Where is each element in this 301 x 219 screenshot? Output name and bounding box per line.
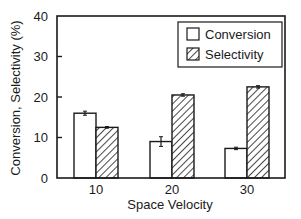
bars — [74, 86, 269, 178]
y-tick-label: 40 — [34, 9, 48, 24]
y-axis-label: Conversion, Selectivity (%) — [8, 20, 23, 175]
legend: Conversion Selectivity — [178, 22, 282, 67]
legend-swatch-selectivity — [187, 48, 199, 60]
legend-label-conversion: Conversion — [205, 27, 271, 42]
y-tick-label: 20 — [34, 90, 48, 105]
x-tick-label: 20 — [165, 182, 179, 197]
x-tick-label: 10 — [89, 182, 103, 197]
bar-selectivity-30 — [247, 87, 269, 178]
y-tick-label: 0 — [41, 171, 48, 186]
bar-conversion-10 — [74, 113, 96, 178]
y-tick-labels: 40 30 20 10 0 — [34, 9, 48, 186]
x-tick-label: 30 — [240, 182, 254, 197]
y-tick-label: 30 — [34, 49, 48, 64]
bar-conversion-20 — [150, 142, 172, 178]
bar-chart: Conversion, Selectivity (%) 40 30 20 10 … — [0, 0, 301, 219]
x-tick-labels: 10 20 30 — [89, 182, 254, 197]
legend-swatch-conversion — [187, 28, 199, 40]
bar-selectivity-20 — [172, 95, 194, 178]
bar-conversion-30 — [225, 148, 247, 178]
y-tick-label: 10 — [34, 130, 48, 145]
legend-label-selectivity: Selectivity — [205, 47, 264, 62]
x-axis-label: Space Velocity — [127, 197, 213, 212]
bar-selectivity-10 — [96, 127, 118, 178]
